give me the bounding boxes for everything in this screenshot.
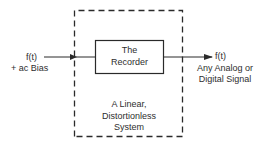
recorder-label-line2: Recorder (95, 57, 164, 67)
system-label-line2: Distortionless (75, 111, 183, 121)
output-label-ft: f(t) (215, 51, 226, 61)
input-label-ft: f(t) (26, 52, 37, 62)
output-label-digital-signal: Digital Signal (186, 74, 264, 84)
input-label-bias: + ac Bias (11, 63, 48, 73)
output-arrowhead-icon (204, 54, 213, 60)
recorder-system-diagram: f(t) + ac Bias The Recorder f(t) Any Ana… (0, 0, 264, 150)
output-label-any-analog: Any Analog or (186, 63, 264, 73)
system-label-line3: System (75, 122, 183, 132)
system-label-line1: A Linear, (75, 99, 183, 109)
input-arrowhead-icon (70, 54, 77, 60)
recorder-label-line1: The (95, 45, 164, 55)
